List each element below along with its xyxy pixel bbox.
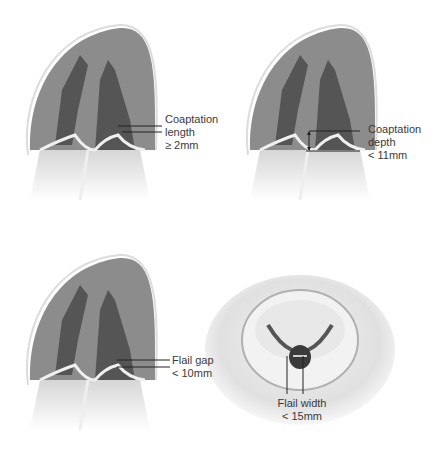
label-flail-gap: Flail gap < 10mm [172,354,214,380]
panel-flail-gap [27,255,170,430]
panel-coaptation-length [27,25,162,200]
label-coaptation-depth: Coaptation depth < 11mm [368,123,421,162]
label-coaptation-length: Coaptation length ≥ 2mm [165,113,218,152]
panel-coaptation-depth [247,25,377,200]
diagram-canvas [0,0,441,449]
label-flail-width: Flail width < 15mm [270,397,334,423]
